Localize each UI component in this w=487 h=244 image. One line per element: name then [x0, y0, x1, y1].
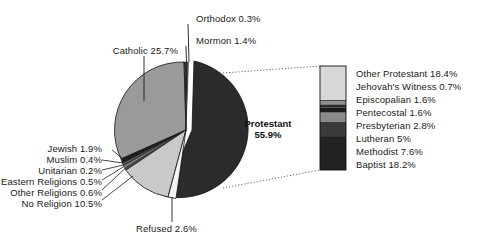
leader-line-muslim — [102, 160, 123, 163]
leader-line-orthodox — [188, 24, 189, 62]
pie-label-catholic: Catholic 25.7% — [68, 46, 178, 56]
bar-label-methodist: Methodist 7.6% — [356, 146, 423, 157]
leader-line-eastern-religions — [102, 167, 124, 181]
connector-line-bottom — [223, 170, 320, 188]
leader-line-other-religions — [102, 169, 125, 191]
bar-segment-episcopalian[interactable] — [320, 102, 346, 105]
pie-label-unitarian: Unitarian 0.2% — [0, 166, 102, 176]
leader-line-mormon — [186, 46, 187, 62]
pie-center-label-value: 55.9% — [255, 129, 282, 140]
pie-label-orthodox: Orthodox 0.3% — [196, 14, 261, 24]
pie-center-label: Protestant 55.9% — [232, 119, 304, 141]
pie-group — [114, 61, 248, 198]
bar-label-baptist: Baptist 18.2% — [356, 159, 416, 170]
pie-label-jewish: Jewish 1.9% — [0, 144, 102, 154]
connector-line-top — [223, 66, 320, 73]
pie-label-no-religion: No Religion 10.5% — [0, 199, 102, 209]
religious-affiliation-chart: Protestant 55.9% Orthodox 0.3% Mormon 1.… — [0, 0, 487, 244]
pie-label-mormon: Mormon 1.4% — [196, 36, 256, 46]
pie-label-muslim: Muslim 0.4% — [0, 155, 102, 165]
bar-label-presbyterian: Presbyterian 2.8% — [356, 120, 435, 131]
bar-label-other-protestant: Other Protestant 18.4% — [356, 68, 457, 79]
protestant-breakout-bar — [320, 66, 346, 170]
bar-label-pentecostal: Pentecostal 1.6% — [356, 107, 432, 118]
bar-label-jehovahs-witness: Jehovah's Witness 0.7% — [356, 81, 461, 92]
pie-label-eastern-religions: Eastern Religions 0.5% — [0, 177, 102, 187]
bar-segment-baptist[interactable] — [320, 136, 346, 170]
bar-segment-methodist[interactable] — [320, 122, 346, 136]
leader-line-no-religion — [102, 176, 133, 200]
bar-segment-lutheran[interactable] — [320, 113, 346, 122]
bar-label-lutheran: Lutheran 5% — [356, 133, 411, 144]
pie-center-label-name: Protestant — [245, 118, 292, 129]
bar-segment-other-protestant[interactable] — [320, 66, 346, 100]
bar-segment-jehovahs-witness[interactable] — [320, 100, 346, 101]
bar-segment-presbyterian[interactable] — [320, 108, 346, 113]
pie-label-other-religions: Other Religions 0.6% — [0, 188, 102, 198]
pie-label-refused: Refused 2.6% — [136, 224, 197, 234]
bar-label-episcopalian: Episcopalian 1.6% — [356, 94, 436, 105]
bar-segment-pentecostal[interactable] — [320, 105, 346, 108]
